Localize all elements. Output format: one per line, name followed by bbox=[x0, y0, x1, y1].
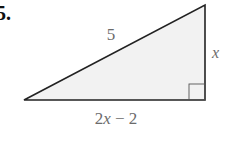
hypotenuse-label: 5 bbox=[107, 25, 116, 44]
triangle bbox=[24, 5, 205, 100]
right-triangle-figure: 5. 5 x 2x − 2 bbox=[0, 0, 228, 152]
horizontal-leg-label: 2x − 2 bbox=[95, 109, 138, 128]
problem-number: 5. bbox=[0, 2, 11, 24]
vertical-leg-label: x bbox=[211, 44, 219, 61]
